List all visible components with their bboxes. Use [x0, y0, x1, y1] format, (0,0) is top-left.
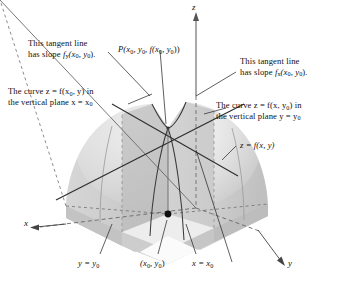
axis-label-x: x [24, 218, 28, 228]
label-point-p: P(x0, y0, f(x0, y0)) [118, 44, 180, 54]
label-base-point-x0-y0: (x0, y0) [140, 258, 165, 268]
axis-label-z: z [192, 2, 196, 12]
base-point-marker [165, 211, 172, 218]
leader-tangent-fy [108, 52, 150, 96]
label-base-x-equals-x0: x = x0 [192, 258, 213, 268]
leader-tangent-fx [196, 72, 236, 96]
label-base-y-equals-y0: y = y0 [78, 258, 99, 268]
label-tangent-line-fy: This tangent line has slope fy(x0, y0). [28, 38, 96, 59]
label-tangent-line-fx: This tangent line has slope fx(x0, y0). [240, 56, 308, 77]
label-surface-equation: z = f(x, y) [240, 140, 275, 150]
label-curve-x-equals-x0: The curve z = f(x0, y) in the vertical p… [8, 86, 94, 107]
label-curve-y-equals-y0: The curve z = f(x, y0) in the vertical p… [216, 100, 302, 121]
axis-label-y: y [288, 258, 292, 268]
figure-container: This tangent line has slope fy(x0, y0). … [0, 0, 353, 290]
